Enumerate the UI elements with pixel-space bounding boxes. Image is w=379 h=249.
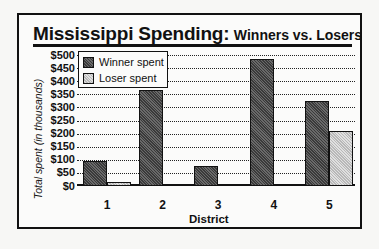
x-tick-label: 1 (97, 198, 117, 212)
chart-frame: Mississippi Spending: Winners vs. Losers… (17, 13, 362, 229)
x-tick-label: 2 (153, 198, 173, 212)
chart-title-main: Mississippi Spending: (33, 23, 229, 44)
winner-swatch-icon (83, 57, 94, 68)
y-tick-label: $400 (41, 76, 75, 87)
legend-item-winner: Winner spent (83, 55, 164, 69)
y-tick-label: $450 (41, 63, 75, 74)
y-tick-label: $0 (41, 181, 75, 192)
chart-subtitle: Winners vs. Losers (234, 27, 362, 43)
loser-bar-district-5 (329, 131, 353, 186)
winner-bar-district-4 (250, 59, 274, 186)
x-tick-label: 4 (264, 198, 284, 212)
y-tick-label: $200 (41, 128, 75, 139)
legend-label-winner: Winner spent (99, 56, 164, 68)
y-tick-label: $150 (41, 141, 75, 152)
winner-bar-district-5 (305, 101, 329, 186)
loser-bar-district-1 (107, 182, 131, 186)
y-tick-label: $500 (41, 50, 75, 61)
winner-bar-district-3 (194, 166, 218, 186)
loser-swatch-icon (83, 73, 94, 84)
y-tick-label: $100 (41, 154, 75, 165)
y-tick-label: $350 (41, 89, 75, 100)
gridline (77, 94, 355, 95)
y-tick-label: $300 (41, 102, 75, 113)
x-axis-label: District (189, 213, 229, 225)
x-tick-label: 3 (208, 198, 228, 212)
loser-bar-district-3 (218, 184, 242, 186)
legend-item-loser: Loser spent (83, 71, 156, 85)
legend: Winner spent Loser spent (78, 51, 168, 88)
winner-bar-district-1 (83, 161, 107, 186)
y-tick-label: $50 (41, 167, 75, 178)
chart-title: Mississippi Spending: Winners vs. Losers (33, 23, 362, 45)
y-tick-label: $250 (41, 115, 75, 126)
legend-label-loser: Loser spent (99, 72, 156, 84)
x-tick-label: 5 (319, 198, 339, 212)
loser-bar-district-2 (163, 184, 187, 186)
winner-bar-district-2 (139, 90, 163, 186)
title-rule (33, 44, 352, 47)
loser-bar-district-4 (274, 184, 298, 186)
